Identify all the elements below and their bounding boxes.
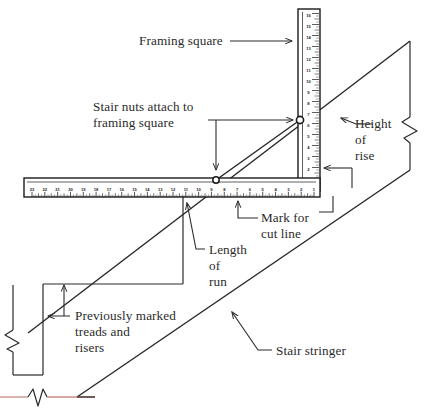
label-mark-for-cut-line2: cut line <box>261 226 301 241</box>
label-length-of-run-line1: Length <box>209 242 247 257</box>
stair-nut-upper <box>296 116 303 123</box>
stair-nut-connecting-line <box>216 120 300 180</box>
horizontal-ruler-number: 22 <box>43 187 48 192</box>
label-length-of-run-line3: run <box>209 274 227 289</box>
mark-for-cut-line-leader-right <box>319 196 333 212</box>
framing-square-vertical-arm: 16151413121110987654321 <box>298 9 320 191</box>
vertical-ruler-number: 12 <box>306 57 311 62</box>
label-previously-marked-line3: risers <box>75 340 104 355</box>
horizontal-ruler-number: 14 <box>145 187 150 192</box>
horizontal-ruler-number: 20 <box>68 187 73 192</box>
label-framing-square: Framing square <box>139 33 223 48</box>
vertical-ruler-number: 15 <box>306 24 311 29</box>
label-height-of-rise-line3: rise <box>355 148 374 163</box>
horizontal-ruler-number: 21 <box>55 187 60 192</box>
stair-nut-lower <box>213 177 219 183</box>
label-height-of-rise-line1: Height <box>355 116 392 131</box>
horizontal-ruler-number: 23 <box>30 187 35 192</box>
label-height-of-rise-line2: of <box>355 132 367 147</box>
floor-baseline <box>0 389 95 406</box>
vertical-ruler-number: 14 <box>306 35 311 40</box>
label-stair-nuts-line1: Stair nuts attach to <box>93 99 194 114</box>
label-stair-stringer: Stair stringer <box>276 343 346 358</box>
label-previously-marked-line2: treads and <box>75 324 130 339</box>
stair-layout-diagram: 16151413121110987654321 2322212019181716… <box>0 0 428 415</box>
vertical-ruler-number: 13 <box>306 46 311 51</box>
horizontal-ruler-number: 19 <box>81 187 86 192</box>
vertical-ruler-number: 10 <box>306 79 311 84</box>
label-mark-for-cut-line1: Mark for <box>261 210 310 225</box>
label-previously-marked-line1: Previously marked <box>75 308 176 323</box>
horizontal-ruler-number: 17 <box>107 187 112 192</box>
horizontal-ruler-number: 15 <box>132 187 137 192</box>
mark-for-cut-line-leader-left <box>238 201 258 218</box>
horizontal-ruler-number: 10 <box>196 187 201 192</box>
horizontal-ruler-number: 18 <box>94 187 99 192</box>
break-symbol-right <box>402 117 417 143</box>
horizontal-ruler-number: 11 <box>184 187 189 192</box>
break-symbol-baseline <box>28 389 47 406</box>
vertical-ruler-number: 16 <box>306 13 311 18</box>
horizontal-ruler-number: 12 <box>171 187 176 192</box>
framing-square-horizontal-arm: 2322212019181716151413121110987654321 <box>24 178 320 197</box>
break-symbol-left <box>5 330 19 352</box>
vertical-ruler-number: 11 <box>306 68 311 73</box>
horizontal-ruler-number: 16 <box>119 187 124 192</box>
stair-stringer-leader <box>232 312 272 350</box>
label-stair-nuts-line2: framing square <box>93 115 174 130</box>
horizontal-ruler-number: 13 <box>158 187 163 192</box>
label-length-of-run-line2: of <box>209 258 221 273</box>
